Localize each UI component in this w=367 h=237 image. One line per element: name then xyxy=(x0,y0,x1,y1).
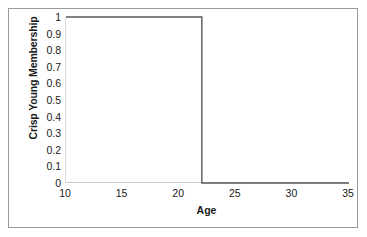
y-axis-tick-label: 0.5 xyxy=(33,94,61,106)
y-axis-tick-labels: 10.90.80.70.60.50.40.30.20.10 xyxy=(33,17,61,183)
y-axis-tick-label: 0.8 xyxy=(33,44,61,56)
x-axis-tick-label: 35 xyxy=(342,187,354,199)
y-axis-tick-label: 0.1 xyxy=(33,160,61,172)
y-axis-tick-label: 0.3 xyxy=(33,127,61,139)
y-axis-tick-label: 0.2 xyxy=(33,144,61,156)
x-axis-title: Age xyxy=(65,204,348,216)
plot-area xyxy=(65,17,349,183)
chart-figure: Crisp Young Membership 10.90.80.70.60.50… xyxy=(8,8,358,228)
x-axis-tick-label: 10 xyxy=(59,187,71,199)
y-axis-tick-label: 0 xyxy=(33,177,61,189)
y-axis-tick-label: 0.6 xyxy=(33,77,61,89)
data-line-series xyxy=(66,17,349,183)
step-function-polyline xyxy=(66,17,349,183)
x-axis-tick-labels: 101520253035 xyxy=(65,187,348,203)
y-axis-tick-label: 0.4 xyxy=(33,111,61,123)
x-axis-tick-label: 25 xyxy=(229,187,241,199)
x-axis-tick-label: 30 xyxy=(286,187,298,199)
y-axis-tick-label: 0.9 xyxy=(33,28,61,40)
y-axis-tick-label: 1 xyxy=(33,11,61,23)
x-axis-tick-label: 20 xyxy=(172,187,184,199)
x-axis-tick-label: 15 xyxy=(116,187,128,199)
y-axis-tick-label: 0.7 xyxy=(33,61,61,73)
